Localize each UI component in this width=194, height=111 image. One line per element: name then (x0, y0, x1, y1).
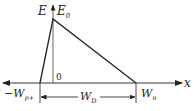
e-axis-label: E (37, 4, 47, 18)
peak-label: E0 (56, 4, 71, 20)
x-axis-label: x (184, 76, 191, 90)
origin-label: 0 (56, 72, 62, 82)
right-edge-label: Wn (141, 87, 157, 102)
left-edge-label: −Wp+ (4, 87, 34, 102)
depletion-label: WD (80, 90, 97, 105)
field-profile (40, 19, 136, 83)
field-diagram: E E0 0 x −Wp+ WD Wn (0, 0, 194, 111)
